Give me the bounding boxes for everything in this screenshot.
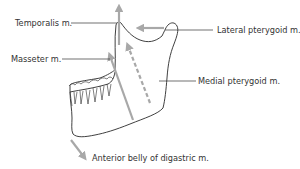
digastric-arrow	[71, 140, 84, 157]
mandible-outline	[70, 22, 178, 137]
teeth	[69, 77, 113, 106]
medial-pterygoid-arrow	[128, 46, 150, 103]
label-lateral-pterygoid: Lateral pterygoid m.	[217, 25, 300, 35]
label-masseter: Masseter m.	[11, 54, 61, 64]
muscle-arrows	[71, 8, 164, 157]
masseter-arrow	[110, 56, 133, 120]
label-anterior-digastric: Anterior belly of digastric m.	[92, 153, 209, 163]
label-temporalis: Temporalis m.	[15, 18, 72, 28]
mandible-muscle-diagram: Temporalis m. Masseter m. Lateral pteryg…	[0, 0, 300, 169]
label-medial-pterygoid: Medial pterygoid m.	[198, 76, 280, 86]
